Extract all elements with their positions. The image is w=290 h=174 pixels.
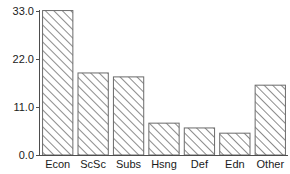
x-axis-category-label: Other bbox=[257, 158, 285, 170]
x-axis-category-label: Def bbox=[191, 158, 209, 170]
x-axis-category-label: ScSc bbox=[80, 158, 106, 170]
chart-canvas: 0.011.022.033.0 EconScScSubsHsngDefEdnOt… bbox=[0, 0, 290, 174]
y-axis-tick-label: 22.0 bbox=[13, 53, 34, 65]
x-axis-category-labels: EconScScSubsHsngDefEdnOther bbox=[45, 158, 284, 170]
y-axis-tick-label: 33.0 bbox=[13, 5, 34, 17]
bar bbox=[78, 73, 108, 155]
y-axis-tick-label: 0.0 bbox=[19, 149, 34, 161]
bar bbox=[149, 123, 179, 155]
bar-chart: 0.011.022.033.0 EconScScSubsHsngDefEdnOt… bbox=[0, 0, 290, 174]
bars-group bbox=[43, 11, 286, 155]
y-axis-tick-labels: 0.011.022.033.0 bbox=[13, 5, 34, 161]
bar bbox=[184, 128, 214, 155]
bar bbox=[43, 11, 73, 155]
x-axis-category-label: Econ bbox=[45, 158, 70, 170]
x-axis-category-label: Edn bbox=[225, 158, 245, 170]
bar bbox=[255, 85, 285, 155]
bar bbox=[220, 133, 250, 155]
bar bbox=[113, 77, 143, 155]
x-axis-category-label: Hsng bbox=[151, 158, 177, 170]
x-axis-category-label: Subs bbox=[116, 158, 142, 170]
y-axis-tick-label: 11.0 bbox=[13, 101, 34, 113]
